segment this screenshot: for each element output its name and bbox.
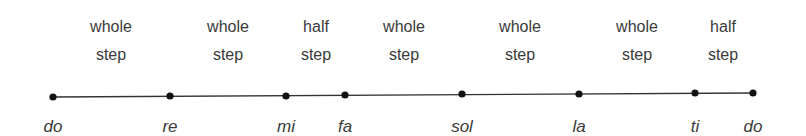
note-dot bbox=[49, 93, 56, 100]
step-label-line1: half bbox=[271, 13, 361, 41]
note-label: sol bbox=[432, 117, 492, 136]
step-label: wholestep bbox=[183, 13, 273, 69]
step-label: wholestep bbox=[66, 13, 156, 69]
note-dot bbox=[282, 92, 289, 99]
step-label-line1: half bbox=[678, 13, 768, 41]
step-label-line2: step bbox=[183, 41, 273, 69]
note-label: ti bbox=[665, 117, 725, 136]
step-label-line2: step bbox=[66, 41, 156, 69]
step-label-line2: step bbox=[475, 41, 565, 69]
note-dot bbox=[749, 89, 756, 96]
step-label: wholestep bbox=[359, 13, 449, 69]
note-label: la bbox=[549, 117, 609, 136]
note-label: re bbox=[140, 117, 200, 136]
scale-line-segment bbox=[53, 93, 753, 97]
note-dot bbox=[341, 91, 348, 98]
step-label-line2: step bbox=[678, 41, 768, 69]
step-label: wholestep bbox=[475, 13, 565, 69]
note-label: fa bbox=[315, 117, 375, 136]
note-label: do bbox=[723, 117, 783, 136]
step-label-line2: step bbox=[592, 41, 682, 69]
step-label-line2: step bbox=[271, 41, 361, 69]
step-label-line1: whole bbox=[475, 13, 565, 41]
step-label-line1: whole bbox=[183, 13, 273, 41]
step-label-line1: whole bbox=[592, 13, 682, 41]
step-label: halfstep bbox=[678, 13, 768, 69]
note-label: mi bbox=[256, 117, 316, 136]
step-label-line2: step bbox=[359, 41, 449, 69]
step-label: halfstep bbox=[271, 13, 361, 69]
note-dot bbox=[458, 90, 465, 97]
step-label: wholestep bbox=[592, 13, 682, 69]
note-dot bbox=[166, 92, 173, 99]
note-dot bbox=[575, 90, 582, 97]
step-label-line1: whole bbox=[66, 13, 156, 41]
scale-diagram: wholestepwholestephalfstepwholestepwhole… bbox=[0, 0, 806, 136]
step-label-line1: whole bbox=[359, 13, 449, 41]
note-label: do bbox=[23, 117, 83, 136]
note-dot bbox=[691, 89, 698, 96]
